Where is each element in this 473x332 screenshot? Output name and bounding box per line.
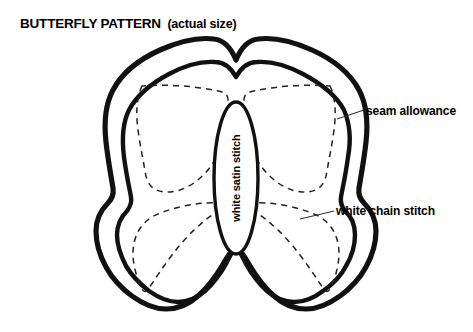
chain-stitch-leader-line (300, 211, 334, 219)
butterfly-pattern-page: BUTTERFLY PATTERN (actual size) white sa… (0, 0, 473, 332)
callout-white-chain-stitch: white chain stitch (336, 204, 435, 218)
callout-seam-allowance: seam allowance (366, 104, 456, 118)
seam-allowance-leader-line (337, 110, 364, 119)
body-satin-stitch-label: white satin stitch (230, 134, 242, 221)
